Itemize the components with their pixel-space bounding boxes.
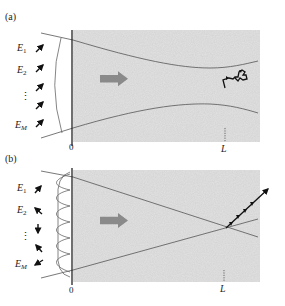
- length-label: L: [220, 143, 227, 154]
- polarization-arrows-uniform: [36, 45, 43, 127]
- shaped-wavefront-curve: [57, 174, 71, 272]
- arrow-icon: [36, 65, 43, 72]
- ellipsis: ⋮: [20, 230, 31, 242]
- arrow-icon: [36, 45, 43, 52]
- arrow-icon: [35, 186, 41, 193]
- arrow-icon: [35, 260, 43, 265]
- field-label-e2: E2: [16, 204, 27, 217]
- field-label-e1: E1: [16, 42, 27, 55]
- medium-texture: [73, 30, 260, 142]
- arrow-icon: [36, 102, 43, 109]
- field-label-em: EM: [14, 258, 28, 271]
- origin-label: 0: [69, 285, 74, 295]
- panel-b: (b) E1 E2 ⋮ EM: [5, 153, 268, 295]
- field-label-e1: E1: [16, 182, 27, 195]
- field-label-e2: E2: [16, 64, 27, 77]
- figure-canvas: (a) E1 E2 ⋮ EM L 0: [0, 0, 285, 306]
- arrow-icon: [35, 208, 42, 214]
- wavefront-envelope: [58, 172, 70, 277]
- ellipsis: ⋮: [20, 90, 31, 102]
- panel-a-label: (a): [5, 11, 16, 23]
- panel-b-label: (b): [5, 153, 17, 165]
- beam-upper-edge: [41, 171, 73, 177]
- origin-label: 0: [69, 142, 74, 152]
- arrow-icon: [36, 245, 42, 252]
- panel-a: (a) E1 E2 ⋮ EM L 0: [5, 11, 260, 154]
- polarization-arrows-varied: [35, 186, 43, 265]
- arrow-icon: [36, 120, 43, 127]
- length-label: L: [219, 283, 226, 294]
- field-label-em: EM: [14, 119, 28, 132]
- wavefront-curve: [55, 38, 62, 133]
- arrow-icon: [36, 84, 43, 91]
